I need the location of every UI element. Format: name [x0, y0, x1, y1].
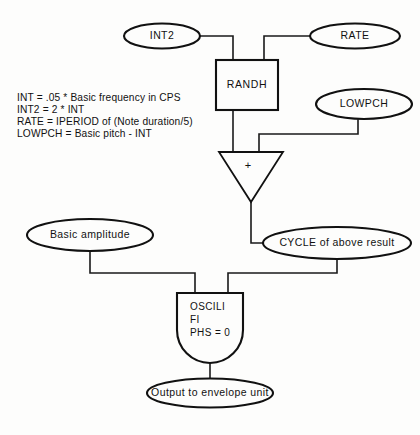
legend-line-2: INT2 = 2 * INT	[17, 104, 85, 115]
node-cycle[interactable]: CYCLE of above result	[263, 227, 411, 259]
node-adder[interactable]: +	[219, 152, 283, 202]
rate-label: RATE	[341, 29, 370, 41]
wire-rate-to-randh	[264, 36, 310, 60]
lowpch-label: LOWPCH	[340, 97, 389, 109]
node-randh[interactable]: RANDH	[216, 60, 278, 110]
wire-cycle-to-oscillator	[228, 259, 337, 293]
node-lowpch[interactable]: LOWPCH	[316, 89, 412, 119]
legend-line-1: INT = .05 * Basic frequency in CPS	[17, 92, 181, 103]
oscillator-line-2: FI	[190, 314, 200, 325]
basic-amplitude-label: Basic amplitude	[50, 228, 130, 240]
oscillator-line-1: OSCILI	[190, 301, 225, 312]
node-int2[interactable]: INT2	[124, 24, 200, 49]
int2-label: INT2	[150, 29, 174, 41]
oscillator-line-3: PHS = 0	[190, 327, 230, 338]
legend-block: INT = .05 * Basic frequency in CPS INT2 …	[17, 92, 193, 139]
wire-int2-to-randh	[200, 36, 233, 60]
randh-label: RANDH	[227, 78, 267, 90]
node-output[interactable]: Output to envelope unit	[147, 379, 273, 408]
wire-lowpch-to-adder	[259, 120, 358, 152]
wire-amplitude-to-oscillator	[90, 251, 195, 293]
node-rate[interactable]: RATE	[310, 24, 400, 49]
node-oscillator[interactable]: OSCILI FI PHS = 0	[177, 293, 243, 363]
signal-flow-diagram: INT2 RATE RANDH LOWPCH + Basic amplitude	[0, 0, 420, 435]
diagram-page: INT2 RATE RANDH LOWPCH + Basic amplitude	[0, 0, 420, 435]
cycle-label: CYCLE of above result	[279, 236, 394, 248]
legend-line-3: RATE = IPERIOD of (Note duration/5)	[17, 116, 193, 127]
legend-line-4: LOWPCH = Basic pitch - INT	[17, 128, 152, 139]
adder-label: +	[245, 159, 251, 171]
output-label: Output to envelope unit	[151, 386, 269, 398]
node-basic-amplitude[interactable]: Basic amplitude	[27, 219, 153, 251]
